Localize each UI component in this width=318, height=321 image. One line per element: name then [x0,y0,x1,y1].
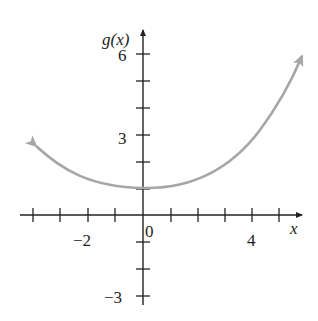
x-tick-label-neg2: −2 [73,231,91,250]
y-tick-label-3: 3 [118,129,127,148]
y-tick-label-neg3: −3 [104,288,122,307]
x-axis-label: x [289,219,298,238]
g-curve [36,56,302,188]
origin-label: 0 [145,222,154,241]
y-tick-label-6: 6 [118,46,127,65]
x-tick-label-4: 4 [247,231,256,250]
function-graph: g(x) 6 3 −3 0 −2 4 x [0,0,318,321]
